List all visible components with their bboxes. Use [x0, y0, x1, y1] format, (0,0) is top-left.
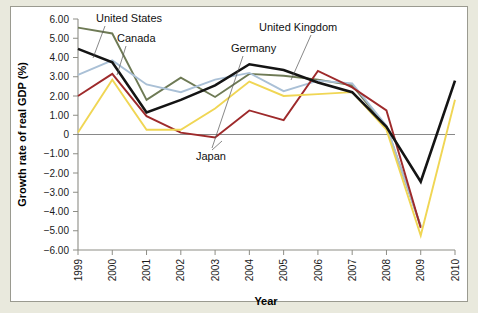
x-tick-label: 2000: [107, 259, 118, 282]
leader-japan: [212, 141, 222, 150]
y-tick-label: −5.00: [44, 225, 70, 236]
x-tick-label: 2002: [175, 259, 186, 282]
x-tick-label: 1999: [73, 259, 84, 282]
y-tick-label: −6.00: [44, 245, 70, 256]
x-tick-label: 2010: [450, 259, 461, 282]
y-tick-label: 5.00: [50, 33, 70, 44]
x-tick-label: 2006: [313, 259, 324, 282]
x-tick-label: 2001: [141, 259, 152, 282]
y-tick-label: 2.00: [50, 91, 70, 102]
y-tick-label: −4.00: [44, 206, 70, 217]
x-axis-title: Year: [254, 295, 278, 307]
series-line-canada: [78, 28, 421, 226]
y-tick-label: 3.00: [50, 71, 70, 82]
series-line-germany: [78, 71, 421, 228]
series-label-united-states: United States: [96, 12, 163, 24]
y-tick-label: 6.00: [50, 14, 70, 25]
x-axis-tick-group: 1999200020012002200320042005200620072008…: [73, 250, 461, 281]
y-tick-label: −3.00: [44, 187, 70, 198]
y-axis-title: Growth rate of real GDP (%): [16, 62, 28, 207]
x-tick-label: 2009: [415, 259, 426, 282]
y-tick-label: −2.00: [44, 168, 70, 179]
y-tick-label: 0: [63, 129, 69, 140]
x-tick-label: 2007: [347, 259, 358, 282]
series-label-united-kingdom: United Kingdom: [259, 21, 337, 33]
series-label-japan: Japan: [196, 150, 226, 162]
y-axis-tick-group: 6.005.004.003.002.001.000−1.00−2.00−3.00…: [44, 14, 78, 256]
y-tick-label: −1.00: [44, 148, 70, 159]
y-tick-label: 1.00: [50, 110, 70, 121]
series-label-canada: Canada: [117, 32, 156, 44]
data-series-group: [78, 28, 455, 236]
figure-container: 6.005.004.003.002.001.000−1.00−2.00−3.00…: [0, 0, 478, 313]
x-tick-label: 2005: [278, 259, 289, 282]
leader-united-kingdom: [291, 35, 311, 80]
growth-rate-line-chart: 6.005.004.003.002.001.000−1.00−2.00−3.00…: [0, 0, 478, 313]
series-label-germany: Germany: [231, 42, 277, 54]
x-tick-label: 2003: [210, 259, 221, 282]
x-tick-label: 2004: [244, 259, 255, 282]
x-tick-label: 2008: [381, 259, 392, 282]
y-tick-label: 4.00: [50, 52, 70, 63]
series-line-japan: [78, 80, 455, 236]
